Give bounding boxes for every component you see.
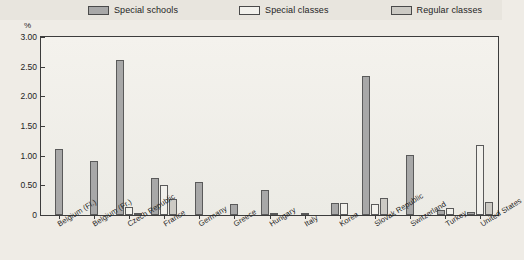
- bar-group: [111, 37, 146, 215]
- y-axis-tick-label: 1.00: [20, 151, 37, 161]
- bar: [362, 76, 370, 215]
- x-axis-label-cell: France: [146, 216, 181, 260]
- bar-group: [217, 37, 252, 215]
- chart-legend: Special schools Special classes Regular …: [0, 0, 502, 20]
- x-axis-label-cell: Belgium (Fl.): [40, 216, 75, 260]
- bar: [371, 204, 379, 215]
- bar-group: [252, 37, 287, 215]
- bar-group: [322, 37, 357, 215]
- bar: [261, 190, 269, 215]
- x-axis-label-cell: Greece: [217, 216, 252, 260]
- legend-item-regular-classes: Regular classes: [391, 0, 483, 20]
- x-axis-label-cell: Turkey: [428, 216, 463, 260]
- bar: [195, 182, 203, 215]
- x-axis-label-cell: Korea: [323, 216, 358, 260]
- bar-group: [393, 37, 428, 215]
- x-axis-label-cell: Italy: [287, 216, 322, 260]
- x-axis-label-cell: Hungary: [252, 216, 287, 260]
- legend-label-special-classes: Special classes: [265, 5, 329, 15]
- bar-group: [41, 37, 76, 215]
- x-axis-labels: Belgium (Fl.)Belgium (Fr.)Czech Republic…: [40, 216, 499, 260]
- x-axis-label-cell: United States: [464, 216, 499, 260]
- bar-group: [287, 37, 322, 215]
- bar: [340, 203, 348, 215]
- y-axis-unit-label: %: [24, 21, 31, 30]
- y-axis-tick-label: 2.00: [20, 91, 37, 101]
- legend-label-special-schools: Special schools: [114, 5, 178, 15]
- legend-swatch-regular-classes: [391, 6, 412, 15]
- bar-group: [182, 37, 217, 215]
- chart-plot-area: 00.501.001.502.002.503.00: [0, 30, 502, 220]
- bar-group: [463, 37, 498, 215]
- bar: [476, 145, 484, 215]
- bar-group: [428, 37, 463, 215]
- legend-swatch-special-schools: [88, 6, 109, 15]
- y-axis-tick-label: 0.50: [20, 180, 37, 190]
- bar: [116, 60, 124, 215]
- legend-item-special-classes: Special classes: [239, 0, 329, 20]
- bar-groups: [41, 37, 498, 215]
- plot-frame: 00.501.001.502.002.503.00: [40, 36, 499, 216]
- x-axis-label: Italy: [303, 213, 320, 228]
- y-axis-tick-label: 0: [32, 210, 37, 220]
- legend-label-regular-classes: Regular classes: [417, 5, 483, 15]
- bar: [230, 204, 238, 215]
- y-axis-tick-label: 1.50: [20, 121, 37, 131]
- bar-group: [146, 37, 181, 215]
- legend-swatch-special-classes: [239, 6, 260, 15]
- x-axis-label-cell: Slovak Republic: [358, 216, 393, 260]
- x-axis-label-cell: Belgium (Fr.): [75, 216, 110, 260]
- bar-group: [76, 37, 111, 215]
- x-axis-label-cell: Switzerland: [393, 216, 428, 260]
- legend-item-special-schools: Special schools: [88, 0, 178, 20]
- bar: [331, 203, 339, 215]
- x-axis-label-cell: Czech Republic: [111, 216, 146, 260]
- y-axis-tick-label: 3.00: [20, 32, 37, 42]
- y-axis-tick-label: 2.50: [20, 62, 37, 72]
- bar: [55, 149, 63, 215]
- bar-group: [357, 37, 392, 215]
- x-axis-label-cell: Germany: [181, 216, 216, 260]
